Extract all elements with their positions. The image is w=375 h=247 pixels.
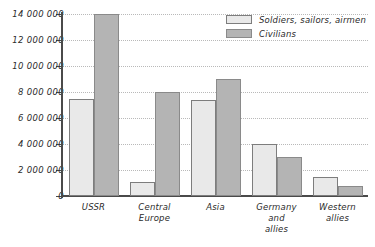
bar-chart: 02 000 0004 000 0006 000 0008 000 00010 …	[0, 0, 375, 247]
x-axis-category-label: Germanyandallies	[246, 202, 307, 235]
legend-item-civilians: Civilians	[226, 28, 366, 39]
legend: Soldiers, sailors, airmen Civilians	[226, 14, 366, 42]
y-axis-tick-label: 8 000 000	[18, 87, 64, 97]
bar-civilians	[94, 14, 119, 196]
y-axis-tick-label: 14 000 000	[12, 9, 64, 19]
bar-soldiers	[130, 182, 155, 196]
legend-item-soldiers: Soldiers, sailors, airmen	[226, 14, 366, 25]
legend-swatch-soldiers-icon	[226, 15, 252, 24]
x-axis-category-label: CentralEurope	[124, 202, 185, 224]
x-axis-category-label: Asia	[185, 202, 246, 213]
bar-civilians	[216, 79, 241, 196]
bar-soldiers	[252, 144, 277, 196]
bar-soldiers	[313, 177, 338, 197]
bar-soldiers	[69, 99, 94, 197]
bar-civilians	[277, 157, 302, 196]
x-axis-category-label: Westernallies	[307, 202, 368, 224]
y-axis-tick-label: 6 000 000	[18, 113, 64, 123]
y-axis-tick-label: 2 000 000	[18, 165, 64, 175]
bar-civilians	[155, 92, 180, 196]
x-axis-category-label: USSR	[63, 202, 124, 213]
legend-label-civilians: Civilians	[259, 29, 296, 39]
bar-soldiers	[191, 100, 216, 196]
y-axis-tick-label: 10 000 000	[12, 61, 64, 71]
bar-civilians	[338, 186, 363, 196]
legend-swatch-civilians-icon	[226, 29, 252, 38]
legend-label-soldiers: Soldiers, sailors, airmen	[259, 15, 366, 25]
y-axis-tick-label: 4 000 000	[18, 139, 64, 149]
y-axis-tick-label: 12 000 000	[12, 35, 64, 45]
